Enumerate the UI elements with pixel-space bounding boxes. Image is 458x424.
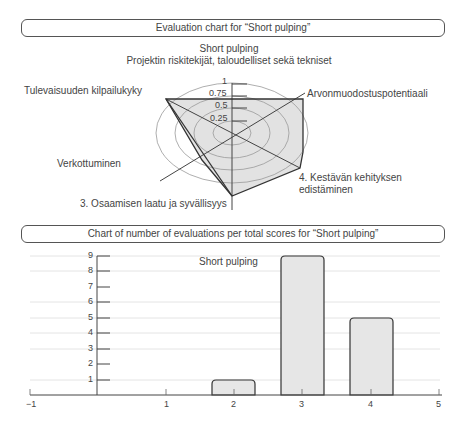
y-tick-7: 7 [88, 281, 93, 291]
x-tick-3: 3 [299, 399, 304, 409]
bar-score-3 [281, 256, 324, 395]
y-tick-4: 4 [88, 327, 93, 337]
bar-chart [0, 0, 458, 424]
bar-score-2 [212, 380, 255, 395]
y-tick-5: 5 [88, 312, 93, 322]
y-tick-2: 2 [88, 358, 93, 368]
x-tick-1: 1 [164, 399, 169, 409]
y-tick-6: 6 [88, 296, 93, 306]
x-tick-4: 4 [368, 399, 373, 409]
x-tick-2: 2 [231, 399, 236, 409]
x-tick-5: 5 [436, 399, 441, 409]
y-tick-3: 3 [88, 343, 93, 353]
y-tick-9: 9 [88, 250, 93, 260]
y-tick-8: 8 [88, 265, 93, 275]
y-tick-1: 1 [88, 374, 93, 384]
bar-legend: Short pulping [199, 256, 258, 267]
x-tick-minus1: −1 [26, 399, 36, 409]
bar-score-4 [350, 318, 393, 395]
